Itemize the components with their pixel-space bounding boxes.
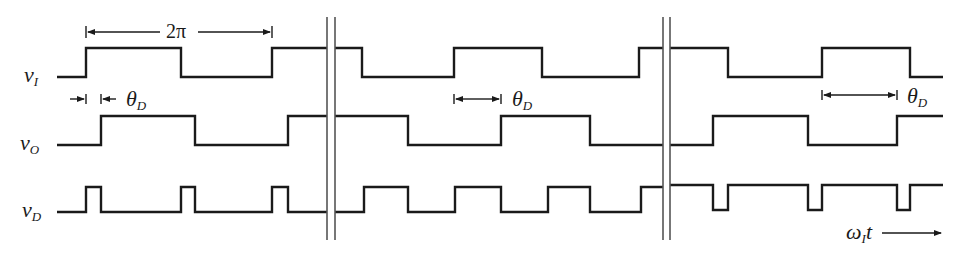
vI-waveform (57, 48, 943, 77)
vD-waveform (57, 185, 943, 212)
vO-label: vO (20, 130, 39, 158)
period-label: 2π (166, 20, 186, 43)
delay-label-1: θD (126, 86, 146, 114)
time-break-lines (327, 17, 670, 240)
waveform-diagram: vI vO vD 2π θD θD θD ωIt (0, 0, 966, 257)
delay-label-3: θD (907, 83, 927, 111)
delay-arrow-1 (70, 94, 116, 104)
vO-waveform (57, 116, 943, 145)
delay-arrow-2 (454, 94, 501, 104)
delay-arrow-3 (822, 90, 897, 100)
delay-label-2: θD (512, 86, 532, 114)
vD-label: vD (22, 197, 41, 225)
vI-label: vI (24, 62, 38, 90)
time-axis-label: ωIt (846, 219, 872, 247)
waveform-canvas (0, 0, 966, 257)
